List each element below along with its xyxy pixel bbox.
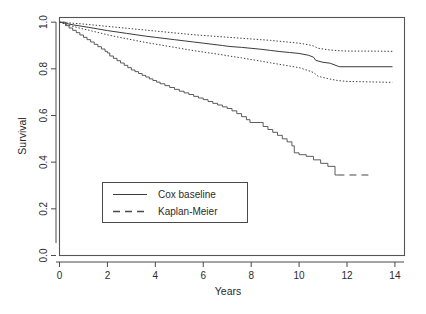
y-tick-label: 0.8	[38, 61, 49, 75]
y-tick-label: 0.2	[38, 201, 49, 215]
y-tick-label: 0.4	[38, 155, 49, 169]
y-tick-label: 0.0	[38, 248, 49, 262]
x-tick-label: 10	[294, 270, 306, 281]
legend-label-kaplan-meier: Kaplan-Meier	[158, 206, 218, 217]
legend-label-cox-baseline: Cox baseline	[158, 189, 216, 200]
y-tick-label: 1.0	[38, 15, 49, 29]
legend: Cox baseline Kaplan-Meier	[103, 183, 248, 223]
x-tick-label: 0	[57, 270, 63, 281]
y-tick-label: 0.6	[38, 108, 49, 122]
x-tick-label: 4	[153, 270, 159, 281]
x-tick-label: 14	[389, 270, 401, 281]
x-tick-label: 2	[105, 270, 111, 281]
survival-plot-figure: 0.00.20.40.60.81.0 Survival 02468101214 …	[0, 0, 426, 314]
x-axis-title: Years	[215, 285, 241, 297]
y-axis-title: Survival	[16, 117, 28, 154]
x-tick-label: 8	[248, 270, 254, 281]
x-tick-label: 12	[341, 270, 353, 281]
survival-chart-svg: 0.00.20.40.60.81.0 Survival 02468101214 …	[0, 0, 426, 314]
figure-background	[0, 0, 426, 314]
x-tick-label: 6	[200, 270, 206, 281]
